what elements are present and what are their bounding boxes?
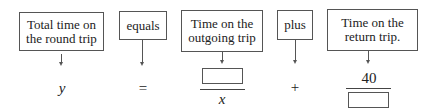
label-text: return trip. xyxy=(341,30,403,44)
label-text: Time on the xyxy=(341,16,403,30)
label-text: Time on the xyxy=(188,17,256,31)
down-arrow-icon xyxy=(295,40,296,62)
empty-denominator-box xyxy=(348,92,389,108)
label-text: equals xyxy=(126,19,159,33)
label-text: plus xyxy=(284,18,306,32)
label-text: the round trip xyxy=(26,32,97,46)
plus-sign: + xyxy=(291,79,299,96)
variable-x: x xyxy=(219,91,226,108)
equals-sign: = xyxy=(139,80,147,97)
label-box-equals: equals xyxy=(119,11,167,40)
down-arrow-icon xyxy=(61,54,62,64)
label-text: Total time on xyxy=(26,18,97,32)
label-box-total-time: Total time on the round trip xyxy=(19,12,104,51)
fraction-bar xyxy=(200,89,245,90)
empty-numerator-box xyxy=(202,68,243,84)
label-box-plus: plus xyxy=(277,10,313,40)
label-box-return-time: Time on the return trip. xyxy=(327,9,418,51)
fraction-bar xyxy=(346,88,391,89)
down-arrow-icon xyxy=(142,40,143,64)
variable-y: y xyxy=(59,80,66,97)
numerator-40: 40 xyxy=(362,70,377,87)
label-text: outgoing trip xyxy=(188,31,256,45)
word-equation-diagram: Total time on the round trip y equals = … xyxy=(0,0,428,112)
down-arrow-icon xyxy=(368,51,369,62)
label-box-outgoing-time: Time on the outgoing trip xyxy=(181,10,263,52)
down-arrow-icon xyxy=(222,52,223,62)
